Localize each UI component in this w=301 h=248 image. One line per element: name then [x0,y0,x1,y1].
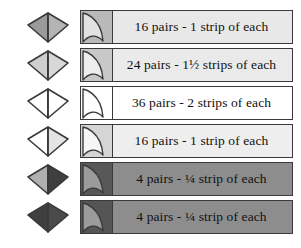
legend-bar-label: 4 pairs - ¼ strip of each [113,201,292,233]
kite-patch-icon [22,160,74,198]
kite-patch-icon [22,84,74,122]
petal-swatch-icon [81,11,113,43]
legend-row: 36 pairs - 2 strips of each [0,84,301,122]
legend-row: 4 pairs - ¼ strip of each [0,160,301,198]
legend-bar-label: 4 pairs - ¼ strip of each [113,163,292,195]
legend-bar: 4 pairs - ¼ strip of each [80,162,293,196]
petal-swatch-icon [81,87,113,119]
legend-bar: 16 pairs - 1 strip of each [80,124,293,158]
legend-bar: 36 pairs - 2 strips of each [80,86,293,120]
kite-patch-icon [22,46,74,84]
petal-swatch-icon [81,49,113,81]
legend-bar: 16 pairs - 1 strip of each [80,10,293,44]
kite-patch-icon [22,8,74,46]
legend-bar-label: 36 pairs - 2 strips of each [113,87,292,119]
legend-row: 16 pairs - 1 strip of each [0,8,301,46]
legend-bar-label: 24 pairs - 1½ strips of each [113,49,292,81]
petal-swatch-icon [81,125,113,157]
legend-bar-label: 16 pairs - 1 strip of each [113,125,292,157]
legend-row: 24 pairs - 1½ strips of each [0,46,301,84]
legend-bar: 24 pairs - 1½ strips of each [80,48,293,82]
legend-bar: 4 pairs - ¼ strip of each [80,200,293,234]
kite-patch-icon [22,198,74,236]
legend-row: 4 pairs - ¼ strip of each [0,198,301,236]
legend-bar-label: 16 pairs - 1 strip of each [113,11,292,43]
kite-patch-icon [22,122,74,160]
petal-swatch-icon [81,163,113,195]
fabric-requirement-legend: 16 pairs - 1 strip of each24 pairs - 1½ … [0,0,301,248]
legend-row: 16 pairs - 1 strip of each [0,122,301,160]
petal-swatch-icon [81,201,113,233]
